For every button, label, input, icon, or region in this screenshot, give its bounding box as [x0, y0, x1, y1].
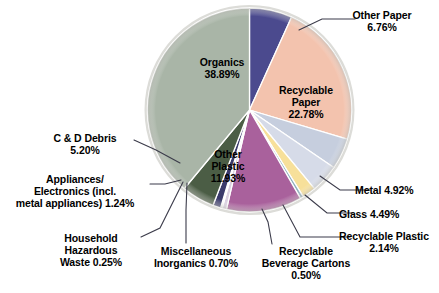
slice-label-organics: Organics 38.89%	[176, 56, 268, 80]
slice-label-other-paper: Other Paper 6.76%	[330, 9, 434, 33]
slice-label-recyclable-paper: Recyclable Paper 22.78%	[268, 84, 344, 121]
slice-label-household-hazardous-waste: Household Hazardous Waste 0.25%	[44, 232, 138, 269]
slice-label-glass: Glass 4.49%	[339, 208, 437, 220]
leader-rec-bev-cartons	[262, 209, 272, 244]
pie-chart-figure: Other Paper 6.76%Recyclable Paper 22.78%…	[0, 0, 439, 293]
leader-misc-inorganics	[186, 183, 187, 243]
slice-label-miscellaneous-inorganics: Miscellaneous Inorganics 0.70%	[138, 245, 254, 269]
slice-label-metal: Metal 4.92%	[355, 184, 437, 196]
slice-label-cd-debris: C & D Debris 5.20%	[26, 132, 144, 156]
slice-label-other-plastic: Other Plastic 11.93%	[196, 148, 260, 185]
slice-label-recyclable-plastic: Recyclable Plastic 2.14%	[330, 230, 438, 254]
slice-label-appliances-electronics: Appliances/ Electronics (incl. metal app…	[2, 173, 148, 210]
